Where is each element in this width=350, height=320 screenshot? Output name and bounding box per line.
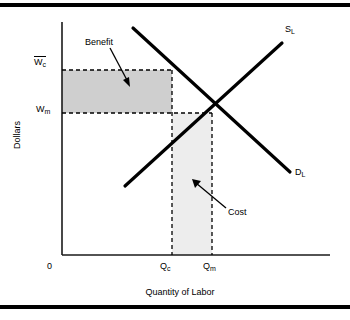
origin-label: 0 [47,262,52,271]
plot-canvas [0,0,350,320]
benefit-region [62,70,172,113]
x-axis-title: Quantity of Labor [100,287,260,297]
y-tick-label-wc: Wc [34,56,46,67]
y-tick-label-wm: Wm [36,105,50,114]
x-tick-label-qc: Qc [160,262,171,271]
cost-region [172,113,212,255]
cost-annotation-label: Cost [228,208,247,217]
benefit-annotation-label: Benefit [85,38,113,47]
y-axis-title: Dollars [12,105,22,165]
demand-curve-label: DL [295,168,305,177]
supply-curve-label: SL [285,25,295,34]
figure-container: Wc Wm 0 Qc Qm SL DL Benefit Cost Dollars… [0,0,350,320]
x-tick-label-qm: Qm [203,262,216,271]
